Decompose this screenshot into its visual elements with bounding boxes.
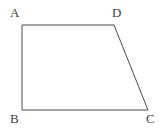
vertex-label-b: B	[10, 112, 19, 125]
geometry-figure: A D C B	[0, 0, 166, 132]
trapezoid-outline	[22, 25, 148, 110]
trapezoid-drawing	[0, 0, 166, 132]
vertex-label-d: D	[112, 6, 121, 19]
vertex-label-c: C	[146, 112, 155, 125]
vertex-label-a: A	[10, 6, 19, 19]
